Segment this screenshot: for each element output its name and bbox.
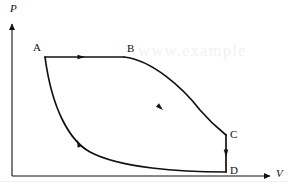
direction-arrow-a-to-b [78,55,86,60]
direction-arrow-b-to-c [156,103,165,111]
point-label-b: B [127,43,134,54]
volume-axis-label: V [276,168,283,179]
segment-d-to-a [45,57,226,172]
pressure-axis-label: P [10,3,17,14]
pv-cycle-plot [0,0,288,193]
segment-b-to-c [124,57,226,135]
direction-arrow-c-to-d [224,150,229,158]
point-label-c: C [230,129,237,140]
pv-diagram-figure: www.example A B C D P V [0,0,288,193]
point-label-d: D [230,165,238,176]
point-label-a: A [33,42,41,53]
